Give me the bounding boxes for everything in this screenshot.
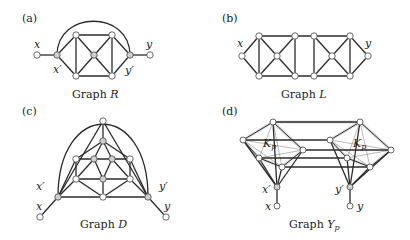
label-y-prime: y′ [334, 183, 344, 196]
node [347, 73, 353, 79]
node-y [163, 214, 169, 220]
node [347, 33, 353, 39]
label-y: y [145, 38, 153, 51]
node [109, 32, 115, 38]
node-y [147, 52, 153, 58]
node [100, 194, 106, 200]
node [329, 53, 335, 59]
node [311, 33, 317, 39]
node [109, 73, 115, 79]
node [357, 119, 363, 125]
node [127, 176, 133, 182]
node [256, 155, 262, 161]
node [91, 156, 97, 162]
node [100, 138, 106, 144]
label-x-prime: x′ [36, 180, 45, 193]
label-x: x [237, 37, 244, 50]
node [256, 73, 262, 79]
node [100, 176, 106, 182]
node-y [347, 203, 353, 209]
node-y-prime [127, 52, 133, 58]
panel-c-tag: (c) [22, 105, 37, 118]
caption-graph-d: Graph D [80, 218, 127, 231]
panel-b-tag: (b) [222, 12, 238, 25]
node [127, 156, 133, 162]
node [292, 73, 298, 79]
node [240, 137, 246, 143]
node [73, 73, 79, 79]
node-x [37, 214, 43, 220]
panel-c-graph-d: (c) [22, 105, 171, 231]
node-x-prime [54, 52, 60, 58]
panel-a-tag: (a) [22, 12, 37, 25]
figure-canvas: (a) x x′ y [0, 0, 410, 240]
graph-d-edges [40, 121, 166, 217]
node-x [239, 53, 245, 59]
caption-graph-yp: Graph Yp [289, 218, 340, 232]
label-y: y [364, 37, 372, 50]
panel-d-graph-yp: (d) [222, 105, 394, 232]
node-x-prime [274, 184, 280, 190]
node-center [91, 52, 97, 58]
label-y-prime: y′ [158, 180, 168, 193]
label-x: x [265, 200, 272, 213]
node [388, 147, 394, 153]
panel-a-graph-r: (a) x x′ y [22, 12, 153, 101]
node-y-prime [145, 194, 151, 200]
panel-b-graph-l: (b) [222, 12, 372, 101]
node-y-prime [347, 184, 353, 190]
label-k-p-right: Kp [352, 137, 366, 151]
node [270, 119, 276, 125]
node-top [100, 118, 106, 124]
node-x [274, 203, 280, 209]
node-x [34, 52, 40, 58]
label-x-prime: x′ [262, 183, 271, 196]
node [300, 147, 306, 153]
label-y-prime: y′ [124, 64, 134, 77]
node [292, 33, 298, 39]
label-y: y [163, 200, 171, 213]
node [109, 156, 115, 162]
caption-graph-r: Graph R [72, 88, 119, 101]
node [279, 164, 285, 170]
node [311, 73, 317, 79]
node [327, 137, 333, 143]
node [274, 53, 280, 59]
node [367, 164, 373, 170]
label-x: x [34, 38, 41, 51]
node [73, 176, 79, 182]
graph-l-edges [242, 36, 368, 76]
label-y: y [356, 200, 364, 213]
node-x-prime [55, 194, 61, 200]
caption-graph-l: Graph L [281, 88, 327, 101]
panel-d-tag: (d) [222, 105, 238, 118]
node [256, 33, 262, 39]
node [344, 155, 350, 161]
node [73, 32, 79, 38]
node-y [365, 53, 371, 59]
label-x-prime: x′ [53, 63, 62, 76]
node [73, 156, 79, 162]
label-x: x [36, 200, 43, 213]
